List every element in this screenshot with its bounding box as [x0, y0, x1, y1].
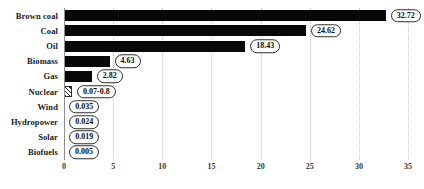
value-label-nuclear: 0.07-0.8 [77, 85, 116, 99]
x-tick-label-0: 0 [62, 162, 66, 171]
x-axis-ticks: 05101520253035 [64, 162, 414, 178]
bar-biomass [64, 56, 110, 67]
x-tick-label-10: 10 [158, 162, 166, 171]
x-tick-label-35: 35 [404, 162, 412, 171]
x-tick-label-15: 15 [207, 162, 215, 171]
category-label-solar: Solar [38, 132, 58, 142]
value-label-brown-coal: 32.72 [391, 9, 421, 23]
bar-row: Coal24.62 [64, 24, 414, 37]
value-label-oil: 18.43 [250, 39, 280, 53]
value-label-solar: 0.019 [69, 130, 99, 144]
y-axis-line [64, 8, 65, 160]
category-label-oil: Oil [46, 41, 58, 51]
category-label-biofuels: Biofuels [28, 147, 58, 157]
category-label-biomass: Biomass [27, 56, 58, 66]
category-label-coal: Coal [41, 26, 58, 36]
value-label-biomass: 4.63 [115, 54, 141, 68]
bar-row: Oil18.43 [64, 40, 414, 53]
bar-gas [64, 71, 92, 82]
bar-row: Biomass4.63 [64, 55, 414, 68]
x-tick-label-20: 20 [257, 162, 265, 171]
bar-oil [64, 41, 245, 52]
bar-nuclear [64, 86, 72, 97]
bar-chart: Brown coal32.72Coal24.62Oil18.43Biomass4… [0, 0, 424, 189]
x-tick-label-5: 5 [111, 162, 115, 171]
category-label-hydropower: Hydropower [11, 117, 58, 127]
bar-row: Wind0.035 [64, 100, 414, 113]
x-tick-label-30: 30 [355, 162, 363, 171]
category-label-gas: Gas [44, 71, 58, 81]
value-label-gas: 2.82 [97, 70, 123, 84]
bar-row: Biofuels0.005 [64, 146, 414, 159]
value-label-biofuels: 0.005 [69, 146, 99, 160]
bar-row: Brown coal32.72 [64, 9, 414, 22]
x-tick-label-25: 25 [306, 162, 314, 171]
category-label-wind: Wind [37, 102, 58, 112]
value-label-coal: 24.62 [311, 24, 341, 38]
category-label-nuclear: Nuclear [29, 87, 59, 97]
bar-coal [64, 25, 306, 36]
bar-row: Nuclear0.07-0.8 [64, 85, 414, 98]
value-label-hydropower: 0.024 [69, 115, 99, 129]
bar-row: Hydropower0.024 [64, 116, 414, 129]
bar-row: Solar0.019 [64, 131, 414, 144]
value-label-wind: 0.035 [69, 100, 99, 114]
bar-row: Gas2.82 [64, 70, 414, 83]
bar-brown-coal [64, 10, 386, 21]
category-label-brown-coal: Brown coal [16, 11, 58, 21]
plot-area: Brown coal32.72Coal24.62Oil18.43Biomass4… [64, 8, 414, 160]
